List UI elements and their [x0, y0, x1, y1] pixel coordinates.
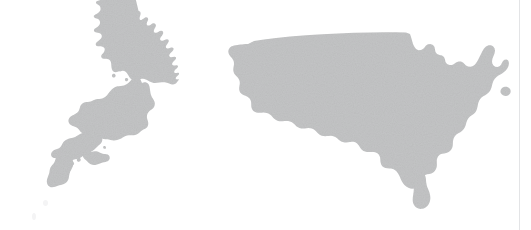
japan-map [0, 0, 230, 230]
florida-path [412, 172, 430, 209]
right-vertical-rule [519, 0, 520, 230]
shikoku-path [83, 151, 110, 165]
figure-canvas [0, 0, 531, 230]
stray-mark-b [32, 213, 36, 220]
usa-map [220, 0, 531, 230]
contiguous-us-path [228, 32, 509, 189]
japan-landmass [47, 0, 181, 187]
stray-mark-a [43, 200, 48, 206]
usa-landmass [228, 32, 510, 209]
honshu-path [68, 74, 154, 141]
northeast-coast-detail-path [500, 87, 510, 96]
